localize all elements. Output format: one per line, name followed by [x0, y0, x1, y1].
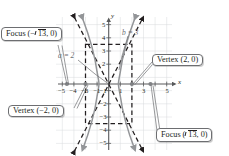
y-tick--1: −1 [100, 88, 107, 95]
y-tick--3: −3 [100, 114, 107, 121]
sqrt-icon: 13 [185, 130, 196, 140]
x-tick--4: −4 [70, 88, 77, 95]
x-tick-1: 1 [119, 88, 122, 95]
y-tick-4: 4 [102, 35, 105, 42]
focus-left-close: ) [54, 29, 57, 38]
y-tick-5: 5 [102, 22, 105, 29]
sqrt-icon: 13 [35, 29, 46, 39]
label-a: a = 2 [58, 52, 74, 60]
label-b: b = 3 [122, 29, 138, 37]
figure-canvas: x y −5 −4 −3 −1 1 3 5 5 4 3 2 −1 −2 −3 −… [0, 0, 229, 156]
x-tick--3: −3 [81, 88, 88, 95]
vertex-right-text: Vertex (2, 0) [157, 55, 198, 64]
x-tick-3: 3 [142, 88, 145, 95]
y-tick--5: −5 [100, 140, 107, 147]
callout-vertex-right[interactable]: Vertex (2, 0) [152, 54, 203, 66]
y-tick--4: −4 [100, 127, 107, 134]
callout-focus-right[interactable]: Focus (13, 0) [156, 128, 212, 142]
focus-right-rest: , 0 [197, 130, 205, 139]
callout-focus-left[interactable]: Focus (−13, 0) [1, 27, 62, 41]
focus-right-word: Focus [161, 130, 181, 139]
focus-left-word: Focus [6, 29, 26, 38]
x-axis-name: x [178, 79, 181, 86]
focus-right-point [148, 82, 152, 86]
focus-right-radicand: 13 [188, 130, 196, 140]
x-tick-5: 5 [165, 88, 168, 95]
y-axis-name: y [111, 13, 114, 20]
leader-vertex-right-a [133, 62, 152, 84]
y-tick--2: −2 [100, 101, 107, 108]
vertex-left-text: Vertex (−2, 0) [13, 106, 59, 115]
y-tick-3: 3 [102, 48, 105, 55]
focus-right-close: ) [205, 130, 208, 139]
y-tick-2: 2 [102, 61, 105, 68]
x-tick--5: −5 [58, 88, 65, 95]
callout-vertex-left[interactable]: Vertex (−2, 0) [8, 105, 64, 117]
focus-left-radicand: 13 [38, 29, 46, 39]
